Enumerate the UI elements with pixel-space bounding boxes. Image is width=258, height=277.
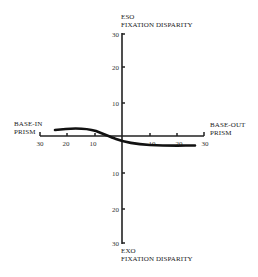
x-tick-right-30: 30 xyxy=(202,140,210,148)
y-tick-top-10: 10 xyxy=(112,100,120,108)
x-tick-left-20: 20 xyxy=(63,140,71,148)
y-tick-bottom-30: 30 xyxy=(112,240,120,248)
y-tick-top-30: 30 xyxy=(112,31,120,39)
x-tick-left-30: 30 xyxy=(37,140,45,148)
y-tick-bottom-10: 10 xyxy=(112,170,120,178)
fixation-disparity-curve xyxy=(55,129,195,146)
y-tick-top-20: 20 xyxy=(112,64,120,72)
chart-plot: 30 20 10 10 20 30 30 20 10 10 20 30 xyxy=(0,0,258,277)
y-tick-bottom-20: 20 xyxy=(112,206,120,214)
x-tick-left-10: 10 xyxy=(90,140,98,148)
